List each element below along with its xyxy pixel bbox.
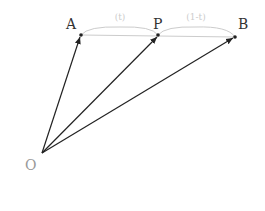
point-b <box>233 35 237 39</box>
brace-label-ap: (t) <box>115 12 126 22</box>
brace-label-pb: (1-t) <box>186 12 205 22</box>
vector-oa <box>42 37 80 153</box>
vector-op <box>42 37 157 153</box>
vector-ob <box>42 38 233 153</box>
brace-pb <box>158 27 235 37</box>
brace-ap <box>81 27 158 35</box>
label-o: O <box>25 157 36 173</box>
label-p: P <box>153 16 162 32</box>
vector-diagram: (t) (1-t) A P B O <box>0 0 265 211</box>
point-p <box>156 33 160 37</box>
label-a: A <box>65 16 77 32</box>
point-a <box>79 33 83 37</box>
label-b: B <box>238 16 248 32</box>
